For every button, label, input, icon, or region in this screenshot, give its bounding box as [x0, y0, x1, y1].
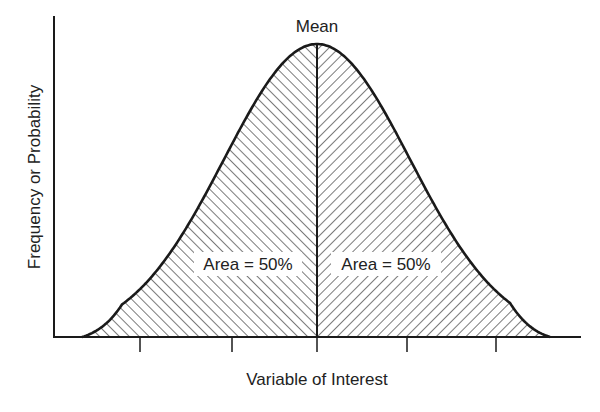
- normal-distribution-diagram: Mean Area = 50% Area = 50% Variable of I…: [0, 0, 600, 412]
- right-area-label: Area = 50%: [341, 255, 430, 274]
- y-axis-label: Frequency or Probability: [25, 84, 44, 269]
- mean-label: Mean: [296, 17, 339, 36]
- x-axis-ticks: [140, 337, 496, 352]
- left-area-label: Area = 50%: [203, 255, 292, 274]
- x-axis-label: Variable of Interest: [246, 370, 388, 389]
